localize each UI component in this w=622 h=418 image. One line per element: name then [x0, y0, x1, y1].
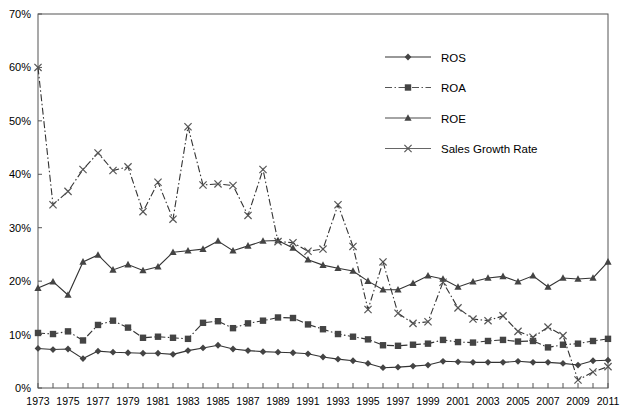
data-point-square [545, 344, 551, 350]
data-point-square [405, 84, 411, 90]
line-chart: 0%10%20%30%40%50%60%70% 1973197519771979… [0, 0, 622, 418]
y-axis-tick-label: 40% [9, 168, 31, 180]
legend-item-ros[interactable]: ROS [385, 52, 466, 64]
data-point-diamond [215, 342, 222, 349]
data-point-triangle [544, 283, 551, 290]
data-point-diamond [455, 358, 462, 365]
data-point-triangle [499, 273, 506, 280]
data-point-diamond [405, 54, 412, 61]
series-line [38, 317, 608, 347]
data-point-x [184, 123, 191, 130]
chart-container: 0%10%20%30%40%50%60%70% 1973197519771979… [0, 0, 622, 418]
data-point-square [365, 336, 371, 342]
data-point-diamond [515, 358, 522, 365]
y-axis-tick-label: 20% [9, 275, 31, 287]
data-point-diamond [335, 356, 342, 363]
legend-item-roa[interactable]: ROA [385, 82, 466, 94]
data-point-x [559, 332, 566, 339]
data-point-square [515, 338, 521, 344]
data-point-triangle [124, 261, 131, 268]
series-ros [35, 342, 612, 371]
data-point-triangle [79, 258, 86, 265]
y-axis-tick-label: 10% [9, 329, 31, 341]
data-point-diamond [95, 348, 102, 355]
data-point-x [379, 258, 386, 265]
data-point-triangle [409, 279, 416, 286]
data-point-x [499, 312, 506, 319]
legend-item-sales-growth-rate[interactable]: Sales Growth Rate [385, 143, 538, 155]
data-point-square [305, 321, 311, 327]
data-point-triangle [94, 251, 101, 258]
data-point-square [605, 336, 611, 342]
data-point-triangle [604, 258, 611, 265]
data-point-square [140, 335, 146, 341]
legend-label: Sales Growth Rate [441, 143, 538, 155]
data-point-diamond [155, 350, 162, 357]
data-point-diamond [110, 349, 117, 356]
data-point-square [335, 331, 341, 337]
data-point-diamond [170, 351, 177, 358]
data-point-x [319, 245, 326, 252]
y-axis-tick-labels: 0%10%20%30%40%50%60%70% [9, 8, 31, 394]
x-axis-tick-marks [38, 383, 608, 388]
data-point-diamond [140, 350, 147, 357]
data-point-diamond [395, 364, 402, 371]
data-point-diamond [440, 358, 447, 365]
x-axis-tick-label: 2003 [476, 395, 500, 407]
data-point-square [575, 340, 581, 346]
series-roe [34, 237, 611, 298]
legend-label: ROE [441, 113, 466, 125]
data-point-diamond [485, 359, 492, 366]
data-point-square [500, 337, 506, 343]
data-point-x [109, 167, 116, 174]
data-point-x [514, 328, 521, 335]
data-point-x [259, 166, 266, 173]
data-point-diamond [350, 357, 357, 364]
data-point-square [440, 337, 446, 343]
data-point-x [454, 304, 461, 311]
legend-item-roe[interactable]: ROE [385, 113, 466, 125]
x-axis-tick-label: 1993 [326, 395, 350, 407]
y-axis-tick-label: 30% [9, 222, 31, 234]
data-point-triangle [424, 272, 431, 279]
legend-label: ROS [441, 52, 466, 64]
x-axis-tick-label: 1979 [116, 395, 140, 407]
data-point-diamond [365, 360, 372, 367]
series-line [38, 67, 608, 380]
y-axis-tick-label: 50% [9, 115, 31, 127]
data-point-triangle [304, 256, 311, 263]
x-axis-tick-label: 1999 [416, 395, 440, 407]
data-point-x [229, 182, 236, 189]
x-axis-tick-label: 1975 [56, 395, 80, 407]
x-axis-tick-label: 1985 [206, 395, 230, 407]
data-point-square [485, 338, 491, 344]
data-point-diamond [65, 346, 72, 353]
x-axis-tick-label: 1995 [356, 395, 380, 407]
data-point-diamond [275, 349, 282, 356]
data-point-square [455, 339, 461, 345]
data-point-square [275, 314, 281, 320]
x-axis-tick-label: 1989 [266, 395, 290, 407]
data-point-diamond [80, 355, 87, 362]
data-point-triangle [529, 272, 536, 279]
x-axis-tick-label: 2001 [446, 395, 470, 407]
data-point-x [544, 323, 551, 330]
data-point-diamond [605, 357, 612, 364]
data-point-square [590, 338, 596, 344]
data-point-diamond [560, 360, 567, 367]
data-point-x [199, 181, 206, 188]
data-point-x [349, 243, 356, 250]
y-axis-tick-label: 60% [9, 61, 31, 73]
data-point-x [124, 163, 131, 170]
data-point-diamond [230, 346, 237, 353]
data-point-square [170, 335, 176, 341]
data-point-triangle [214, 237, 221, 244]
data-point-diamond [530, 359, 537, 366]
x-axis-tick-label: 1983 [176, 395, 200, 407]
x-axis-tick-label: 1973 [26, 395, 50, 407]
data-point-square [65, 328, 71, 334]
data-point-diamond [590, 357, 597, 364]
data-point-x [94, 149, 101, 156]
data-point-diamond [50, 346, 57, 353]
data-point-square [80, 337, 86, 343]
